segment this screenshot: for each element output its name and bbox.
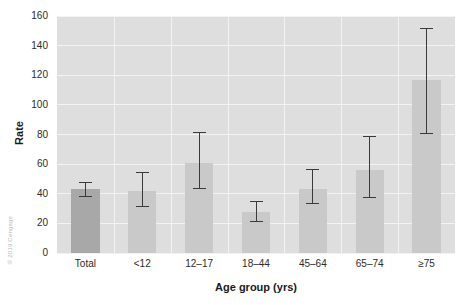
error-bar-cap-top	[136, 172, 149, 173]
gridline-y-120	[57, 75, 455, 76]
gridline-y-80	[57, 134, 455, 135]
error-bar-cap-top	[193, 132, 206, 133]
error-bar-stem	[142, 172, 143, 208]
bar-Total	[71, 189, 99, 253]
y-tick-label-0: 0	[42, 248, 48, 258]
gridline-x-2	[171, 16, 172, 253]
error-bar-cap-bottom	[250, 221, 263, 222]
error-bar-stem	[312, 169, 313, 205]
error-bar-stem	[256, 201, 257, 222]
error-bar-cap-bottom	[79, 196, 92, 197]
x-tick-label-6574: 65–74	[341, 258, 398, 269]
error-bar-cap-bottom	[363, 197, 376, 198]
error-bar-4564	[305, 169, 321, 205]
x-axis-tick-labels: Total<1212–1718–4445–6465–74≥75	[57, 258, 455, 276]
gridline-y-140	[57, 45, 455, 46]
error-bar-cap-bottom	[193, 188, 206, 189]
y-tick-label-140: 140	[31, 41, 48, 51]
error-bar-cap-top	[363, 136, 376, 137]
gridline-x-1	[114, 16, 115, 253]
gridline-y-60	[57, 164, 455, 165]
error-bar-stem	[199, 132, 200, 190]
gridline-x-6	[398, 16, 399, 253]
error-bar-cap-bottom	[420, 133, 433, 134]
error-bar-75	[419, 28, 435, 135]
gridline-y-160	[57, 16, 455, 17]
error-bar-12	[134, 172, 150, 208]
error-bar-stem	[85, 182, 86, 197]
x-tick-label-1844: 18–44	[228, 258, 285, 269]
gridline-y-100	[57, 104, 455, 105]
x-tick-label-Total: Total	[57, 258, 114, 269]
y-tick-label-40: 40	[37, 189, 48, 199]
x-axis-title: Age group (yrs)	[57, 281, 455, 293]
error-bar-Total	[77, 182, 93, 197]
y-tick-label-60: 60	[37, 159, 48, 169]
error-bar-cap-bottom	[136, 206, 149, 207]
y-axis-tick-labels: 020406080100120140160	[0, 16, 52, 253]
error-bar-cap-top	[420, 28, 433, 29]
y-tick-label-20: 20	[37, 218, 48, 228]
y-tick-label-120: 120	[31, 70, 48, 80]
x-tick-label-75: ≥75	[398, 258, 455, 269]
y-tick-label-100: 100	[31, 100, 48, 110]
gridline-y-40	[57, 193, 455, 194]
x-tick-label-1217: 12–17	[171, 258, 228, 269]
gridline-x-5	[341, 16, 342, 253]
error-bar-cap-top	[250, 201, 263, 202]
error-bar-1217	[191, 132, 207, 190]
gridline-x-3	[228, 16, 229, 253]
x-tick-label-12: <12	[114, 258, 171, 269]
error-bar-cap-top	[306, 169, 319, 170]
chart-figure: © 2019 Cengage Rate 02040608010012014016…	[0, 0, 466, 305]
y-tick-label-80: 80	[37, 130, 48, 140]
error-bar-stem	[426, 28, 427, 135]
error-bar-cap-top	[79, 182, 92, 183]
y-tick-label-160: 160	[31, 11, 48, 21]
error-bar-6574	[362, 136, 378, 198]
error-bar-cap-bottom	[306, 203, 319, 204]
gridline-x-4	[284, 16, 285, 253]
error-bar-stem	[369, 136, 370, 198]
x-tick-label-4564: 45–64	[284, 258, 341, 269]
error-bar-1844	[248, 201, 264, 222]
plot-area	[57, 16, 455, 253]
